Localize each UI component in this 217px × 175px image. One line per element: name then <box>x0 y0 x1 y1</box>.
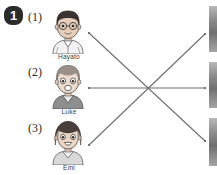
item-name-2: Luke <box>40 108 98 115</box>
line-from-item-1 <box>89 33 205 141</box>
line-from-item-3 <box>89 34 205 145</box>
boy-light-hair-portrait <box>47 63 89 109</box>
line-endpoint-right-bottom <box>204 140 206 142</box>
thumbnail-image <box>209 6 217 52</box>
item-name-3: Emi <box>40 164 98 171</box>
answer-thumbnail-bottom[interactable] <box>209 118 217 166</box>
thumbnail-image <box>209 62 217 108</box>
worksheet-exercise: 1 (1) <box>0 0 217 175</box>
item-name-1: Hayato <box>40 53 98 60</box>
thumbnail-image <box>209 118 217 166</box>
item-number-1: (1) <box>28 10 42 25</box>
line-endpoint-right-top <box>204 33 206 35</box>
line-endpoint-right-middle <box>204 87 206 89</box>
answer-thumbnail-middle[interactable] <box>209 62 217 108</box>
girl-bob-hair-portrait <box>47 119 89 165</box>
item-number-3: (3) <box>28 121 42 136</box>
boy-with-glasses-portrait <box>47 8 89 54</box>
item-number-2: (2) <box>28 65 42 80</box>
answer-thumbnail-top[interactable] <box>209 6 217 52</box>
question-number-badge: 1 <box>4 6 23 25</box>
matching-lines-group <box>0 0 217 175</box>
